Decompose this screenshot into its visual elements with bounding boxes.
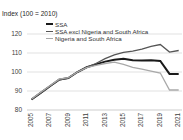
x-tick-label-2011: 2011 bbox=[82, 113, 90, 137]
x-tick-label-2013: 2013 bbox=[101, 113, 109, 137]
legend-label: SSA bbox=[55, 21, 67, 28]
series-line-nigeria-and-south-africa bbox=[32, 62, 179, 99]
legend-item-nigeria-and-south-africa: Nigeria and South Africa bbox=[46, 35, 148, 42]
y-tick-label-120: 120 bbox=[0, 30, 22, 37]
x-tick-label-2019: 2019 bbox=[156, 113, 164, 137]
legend-line-sample-ssa bbox=[46, 23, 53, 25]
legend-item-ssa-excl-nigeria-and-south-africa: SSA excl Nigeria and South Africa bbox=[46, 28, 148, 35]
x-tick-label-2009: 2009 bbox=[64, 113, 72, 137]
x-tick-label-2005: 2005 bbox=[27, 113, 35, 137]
y-tick-label-110: 110 bbox=[0, 49, 22, 56]
x-tick-label-2015: 2015 bbox=[119, 113, 127, 137]
y-tick-label-90: 90 bbox=[0, 87, 22, 94]
gdp-per-capita-index-chart: Index (100 = 2010) 8090100110120 2005200… bbox=[0, 0, 183, 140]
legend-line-sample-ssa-excl-nigeria-and-south-africa bbox=[46, 31, 53, 32]
legend-label: Nigeria and South Africa bbox=[55, 35, 122, 42]
legend-label: SSA excl Nigeria and South Africa bbox=[55, 28, 148, 35]
x-tick-label-2007: 2007 bbox=[45, 113, 53, 137]
legend-line-sample-nigeria-and-south-africa bbox=[46, 38, 53, 39]
x-tick-label-2017: 2017 bbox=[137, 113, 145, 137]
legend-item-ssa: SSA bbox=[46, 21, 148, 28]
chart-legend: SSASSA excl Nigeria and South AfricaNige… bbox=[46, 21, 148, 43]
series-line-ssa bbox=[32, 59, 179, 100]
y-tick-label-80: 80 bbox=[0, 106, 22, 113]
x-tick-label-2021: 2021 bbox=[174, 113, 182, 137]
y-tick-label-100: 100 bbox=[0, 68, 22, 75]
